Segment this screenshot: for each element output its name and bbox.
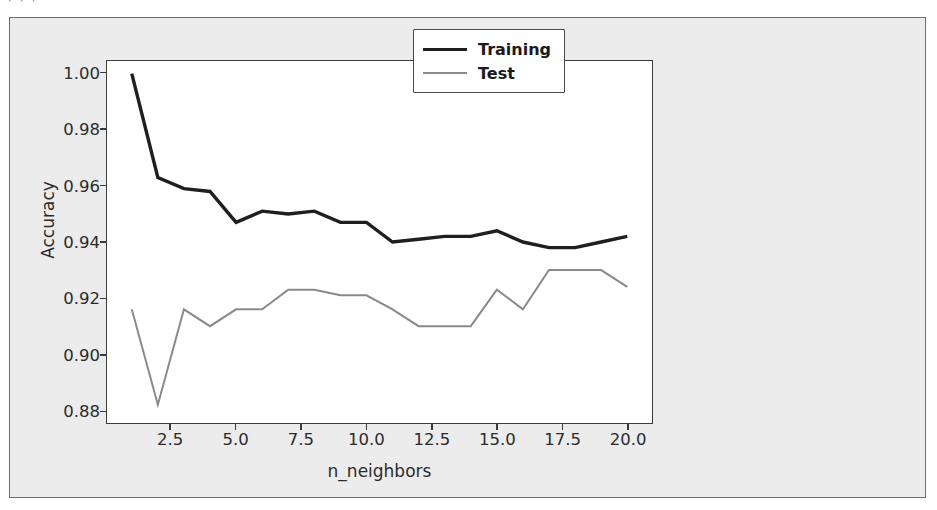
x-tick-mark — [366, 424, 368, 430]
y-axis-title: Accuracy — [38, 160, 58, 280]
x-tick-mark — [562, 424, 564, 430]
series-line-test — [132, 270, 627, 405]
legend-label-training: Training — [478, 40, 551, 59]
series-layer — [132, 74, 627, 405]
legend-line-swatch-training — [423, 48, 467, 51]
x-tick-mark — [300, 424, 302, 430]
plot-svg — [107, 61, 652, 423]
plot-area — [106, 60, 653, 424]
figure-frame: 0.880.900.920.940.960.981.00 2.55.07.510… — [9, 17, 926, 498]
legend-item-training: Training — [423, 37, 551, 61]
x-tick-mark — [496, 424, 498, 430]
x-tick-mark — [627, 424, 629, 430]
legend-line-swatch-test — [423, 72, 467, 74]
x-axis-tick-labels: 2.55.07.510.012.515.017.520.0 — [106, 430, 653, 456]
x-tick-mark — [235, 424, 237, 430]
y-tick-label: 0.92 — [38, 289, 100, 308]
legend-label-test: Test — [478, 64, 515, 83]
legend-item-test: Test — [423, 61, 551, 85]
y-tick-label: 0.98 — [38, 120, 100, 139]
y-tick-label: 0.88 — [38, 402, 100, 421]
y-tick-label: 0.90 — [38, 345, 100, 364]
x-tick-mark — [431, 424, 433, 430]
series-line-training — [132, 74, 627, 248]
x-tick-label: 20.0 — [583, 430, 673, 449]
x-tick-mark — [169, 424, 171, 430]
x-axis-title: n_neighbors — [106, 461, 653, 481]
chart-legend: Training Test — [413, 29, 565, 93]
y-tick-label: 1.00 — [38, 63, 100, 82]
page-top-cutoff-artifact: ⌐⌐⌐ — [8, 0, 68, 6]
